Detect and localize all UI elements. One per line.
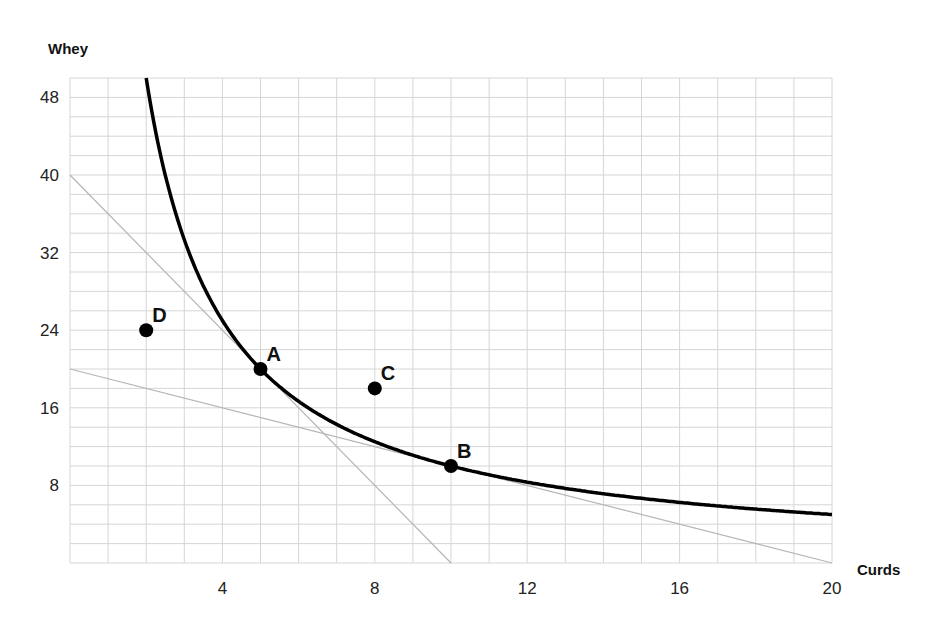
point-a-label: A	[267, 343, 281, 365]
x-tick-label: 16	[670, 579, 689, 598]
grid-lines	[70, 78, 832, 563]
point-b-marker	[444, 459, 458, 473]
tick-labels: 4812162081624324048	[40, 88, 841, 598]
y-tick-label: 8	[50, 476, 59, 495]
point-a-marker	[254, 362, 268, 376]
point-c-marker	[368, 381, 382, 395]
point-d-label: D	[152, 304, 166, 326]
y-axis-title: Whey	[48, 40, 89, 57]
x-axis-title: Curds	[857, 561, 900, 578]
point-d-marker	[139, 323, 153, 337]
x-tick-label: 20	[823, 579, 842, 598]
point-b-label: B	[457, 440, 471, 462]
y-tick-label: 48	[40, 88, 59, 107]
y-tick-label: 24	[40, 321, 59, 340]
y-tick-label: 32	[40, 244, 59, 263]
indifference-curve-chart: ABCD 4812162081624324048 Whey Curds	[0, 0, 946, 631]
x-tick-label: 8	[370, 579, 379, 598]
point-c-label: C	[381, 362, 395, 384]
x-tick-label: 12	[518, 579, 537, 598]
x-tick-label: 4	[218, 579, 227, 598]
y-tick-label: 16	[40, 399, 59, 418]
y-tick-label: 40	[40, 166, 59, 185]
